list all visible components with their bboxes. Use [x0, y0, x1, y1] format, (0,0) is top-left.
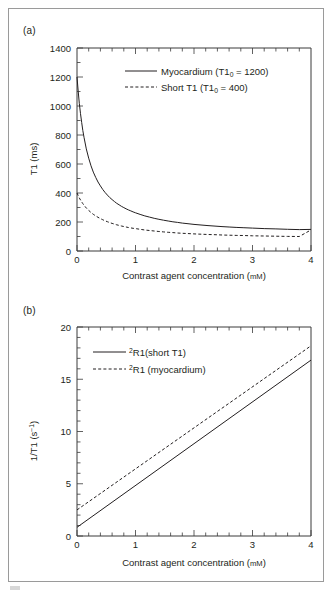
panel-a-axes: [77, 48, 311, 251]
page-artifact-mark: [10, 586, 20, 590]
panel-b-legend: 2R1(short T1) 2R1 (myocardium): [93, 347, 206, 375]
panel-b-plot: 0 5 10 15 20: [9, 291, 325, 581]
panel-b-y-axis-title: 1/T1 (s−1): [28, 421, 39, 461]
panel-a: (a) 0 200 400 600 800: [9, 9, 323, 281]
svg-text:10: 10: [60, 426, 71, 437]
svg-text:4: 4: [308, 254, 313, 265]
panel-b-line-short-t1: [77, 360, 311, 527]
svg-text:3: 3: [250, 539, 255, 550]
svg-text:600: 600: [55, 159, 71, 170]
svg-text:5: 5: [66, 478, 71, 489]
svg-text:2: 2: [191, 539, 196, 550]
svg-text:2: 2: [191, 254, 196, 265]
panel-a-y-axis-title: T1 (ms): [28, 143, 39, 176]
svg-text:400: 400: [55, 188, 71, 199]
svg-text:1200: 1200: [50, 72, 71, 83]
panel-a-legend: Myocardium (T10 = 1200) Short T1 (T10 = …: [125, 66, 269, 94]
legend-label-r1-myocardium: 2R1 (myocardium): [129, 364, 206, 375]
panel-b-x-axis-title: Contrast agent concentration (mM): [122, 557, 266, 568]
panel-a-curve-myocardium: [77, 77, 311, 230]
svg-text:0: 0: [66, 531, 71, 542]
svg-text:3: 3: [250, 254, 255, 265]
svg-text:4: 4: [308, 539, 313, 550]
legend-label-myocardium: Myocardium (T10 = 1200): [161, 66, 269, 78]
svg-text:0: 0: [74, 539, 79, 550]
panel-b: (b) 0 5 10 15 20: [9, 291, 323, 571]
svg-text:800: 800: [55, 130, 71, 141]
figure-border: (a) 0 200 400 600 800: [8, 8, 324, 582]
panel-b-axes: [77, 327, 311, 536]
legend-label-r1-short-t1: 2R1(short T1): [129, 347, 186, 358]
svg-text:1: 1: [133, 539, 138, 550]
panel-a-y-ticks: 0 200 400 600 800 1000 1200 1400: [50, 43, 83, 257]
panel-a-plot: 0 200 400 600 800 1000 1200 1400: [9, 9, 325, 281]
svg-text:1400: 1400: [50, 43, 71, 54]
svg-text:15: 15: [60, 374, 71, 385]
legend-label-short-t1: Short T1 (T10 = 400): [161, 82, 248, 94]
svg-text:0: 0: [74, 254, 79, 265]
panel-b-x-ticks: 0 1 2 3 4: [74, 327, 313, 550]
svg-text:1000: 1000: [50, 101, 71, 112]
svg-text:20: 20: [60, 322, 71, 333]
svg-text:200: 200: [55, 217, 71, 228]
svg-text:1: 1: [133, 254, 138, 265]
panel-a-x-axis-title: Contrast agent concentration (mM): [122, 270, 266, 281]
svg-text:0: 0: [66, 246, 71, 257]
